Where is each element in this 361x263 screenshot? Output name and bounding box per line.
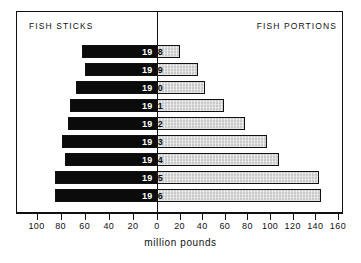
x-axis-title: million pounds xyxy=(0,237,361,248)
bar-row: 1959 xyxy=(0,63,361,76)
x-axis-tick xyxy=(293,214,294,220)
bar-row: 1963 xyxy=(0,135,361,148)
x-axis-tick xyxy=(157,214,158,220)
x-axis-tick xyxy=(180,214,181,220)
bar-fish-portions xyxy=(157,171,319,184)
bar-fish-portions xyxy=(157,45,180,58)
bar-fish-portions xyxy=(157,99,224,112)
x-axis-tick-label: 120 xyxy=(285,221,301,231)
bar-fish-sticks xyxy=(55,189,157,202)
x-axis-tick xyxy=(109,214,110,220)
bar-row: 1961 xyxy=(0,99,361,112)
bar-fish-portions xyxy=(157,63,198,76)
bar-fish-portions xyxy=(157,135,267,148)
x-axis-tick xyxy=(247,214,248,220)
bar-fish-sticks xyxy=(68,117,157,130)
bar-row: 1964 xyxy=(0,153,361,166)
x-axis-tick-label: 40 xyxy=(197,221,208,231)
x-axis-tick-label: 160 xyxy=(330,221,346,231)
bar-fish-sticks xyxy=(82,45,157,58)
x-axis-tick xyxy=(270,214,271,220)
x-axis-tick xyxy=(37,214,38,220)
bar-fish-portions xyxy=(157,81,205,94)
bar-row: 1958 xyxy=(0,45,361,58)
x-axis-tick xyxy=(315,214,316,220)
bar-row: 1960 xyxy=(0,81,361,94)
bar-fish-sticks xyxy=(85,63,157,76)
bar-fish-sticks xyxy=(76,81,157,94)
bar-fish-sticks xyxy=(70,99,157,112)
x-axis-tick-label: 140 xyxy=(307,221,323,231)
x-axis-tick-label: 20 xyxy=(127,221,138,231)
bar-row: 1962 xyxy=(0,117,361,130)
x-axis-tick-label: 0 xyxy=(154,221,159,231)
x-axis-tick xyxy=(338,214,339,220)
x-axis-tick xyxy=(85,214,86,220)
bar-row: 1966 xyxy=(0,189,361,202)
bar-fish-portions xyxy=(157,189,321,202)
x-axis-tick-label: 100 xyxy=(28,221,44,231)
x-axis-tick xyxy=(202,214,203,220)
bar-fish-sticks xyxy=(62,135,157,148)
bar-fish-sticks xyxy=(55,171,157,184)
x-axis-tick-label: 80 xyxy=(55,221,66,231)
x-axis-tick-label: 80 xyxy=(242,221,253,231)
bar-row: 1965 xyxy=(0,171,361,184)
x-axis-tick-label: 60 xyxy=(79,221,90,231)
bar-fish-portions xyxy=(157,117,245,130)
x-axis-tick xyxy=(61,214,62,220)
x-axis-tick-label: 20 xyxy=(174,221,185,231)
x-axis-tick-label: 100 xyxy=(262,221,278,231)
bar-fish-sticks xyxy=(65,153,157,166)
fish-production-diverging-bar-chart: FISH STICKS FISH PORTIONS 19581959196019… xyxy=(0,0,361,263)
x-axis-tick-label: 60 xyxy=(219,221,230,231)
bar-fish-portions xyxy=(157,153,279,166)
x-axis-tick xyxy=(225,214,226,220)
x-axis-tick xyxy=(133,214,134,220)
x-axis-tick-label: 40 xyxy=(103,221,114,231)
